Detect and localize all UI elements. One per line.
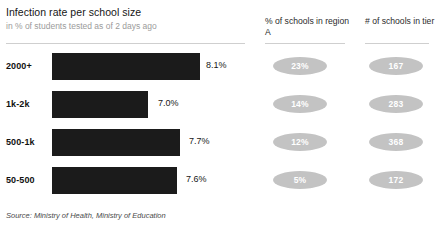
bar — [52, 91, 148, 118]
infographic-panel: Infection rate per school size in % of s… — [0, 0, 435, 227]
bar-value-label: 8.1% — [206, 60, 227, 70]
table-row: 1k-2k 7.0% 14% 283 — [0, 88, 435, 125]
bar-track — [52, 129, 180, 156]
chart-rows: 2000+ 8.1% 23% 167 1k-2k 7.0% 14% 283 50… — [0, 50, 435, 200]
status-badge-pct-region-a: 23% — [273, 57, 327, 75]
table-row: 2000+ 8.1% 23% 167 — [0, 50, 435, 87]
page-title: Infection rate per school size — [6, 6, 246, 19]
row-category-label: 500-1k — [6, 137, 50, 147]
bar-track — [52, 91, 148, 118]
bar-value-label: 7.6% — [186, 174, 207, 184]
bar — [52, 53, 200, 80]
column-header-schools-in-tier: # of schools in tier — [365, 16, 435, 27]
page-subtitle: in % of students tested as of 2 days ago — [6, 20, 246, 32]
bar-value-label: 7.7% — [189, 136, 210, 146]
bar — [52, 129, 180, 156]
table-row: 50-500 7.6% 5% 172 — [0, 164, 435, 201]
header-left: Infection rate per school size in % of s… — [6, 6, 246, 32]
status-badge-schools-in-tier: 167 — [369, 57, 423, 75]
status-badge-schools-in-tier: 368 — [369, 133, 423, 151]
bar — [52, 167, 177, 194]
bar-track — [52, 167, 177, 194]
status-badge-schools-in-tier: 283 — [369, 95, 423, 113]
source-note: Source: Ministry of Health, Ministry of … — [6, 211, 166, 220]
status-badge-schools-in-tier: 172 — [369, 171, 423, 189]
header-divider-mid — [265, 43, 345, 44]
row-category-label: 50-500 — [6, 175, 50, 185]
table-row: 500-1k 7.7% 12% 368 — [0, 126, 435, 163]
row-category-label: 1k-2k — [6, 99, 50, 109]
status-badge-pct-region-a: 14% — [273, 95, 327, 113]
header-divider-right — [365, 43, 429, 44]
bar-track — [52, 53, 200, 80]
column-header-pct-region-a: % of schools in region A — [265, 16, 355, 38]
bar-value-label: 7.0% — [158, 98, 179, 108]
row-category-label: 2000+ — [6, 61, 50, 71]
header-divider-left — [6, 43, 245, 44]
status-badge-pct-region-a: 5% — [273, 171, 327, 189]
status-badge-pct-region-a: 12% — [273, 133, 327, 151]
